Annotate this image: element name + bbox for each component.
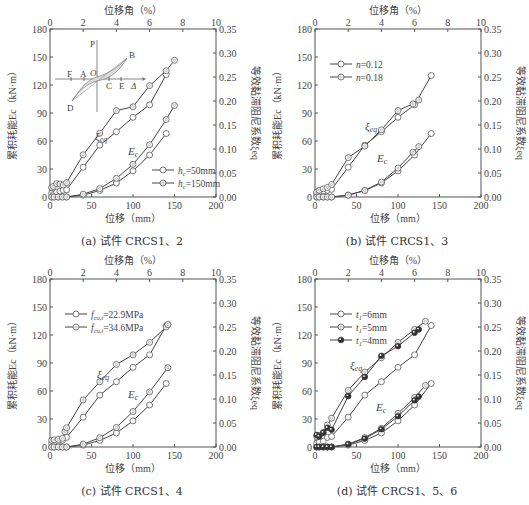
y-axis-label: 累积耗能Ec（kN·m） bbox=[271, 316, 283, 410]
chart-d-svg: 050100150200024681003060901201501800.000… bbox=[265, 250, 529, 482]
svg-text:0.10: 0.10 bbox=[219, 394, 237, 405]
svg-text:2: 2 bbox=[81, 267, 86, 278]
svg-text:0.35: 0.35 bbox=[484, 24, 502, 35]
svg-text:30: 30 bbox=[37, 164, 47, 175]
svg-text:180: 180 bbox=[32, 24, 47, 35]
chart-panel-d: 050100150200024681003060901201501800.000… bbox=[265, 250, 529, 502]
svg-text:Ec: Ec bbox=[127, 145, 139, 159]
svg-text:0.00: 0.00 bbox=[484, 442, 502, 453]
svg-text:150: 150 bbox=[297, 52, 312, 63]
legend: t1=6mmt1=5mmt1=4mm bbox=[330, 310, 387, 347]
svg-text:50: 50 bbox=[352, 450, 362, 461]
svg-text:0: 0 bbox=[48, 200, 53, 211]
x-axis-label: 位移（mm） bbox=[105, 212, 161, 224]
svg-text:ξeq: ξeq bbox=[365, 120, 377, 134]
svg-text:0.25: 0.25 bbox=[219, 322, 237, 333]
svg-text:0.00: 0.00 bbox=[219, 192, 237, 203]
svg-text:100: 100 bbox=[391, 200, 406, 211]
svg-text:Ec: Ec bbox=[375, 401, 387, 415]
svg-text:150: 150 bbox=[32, 52, 47, 63]
svg-text:0: 0 bbox=[42, 442, 47, 453]
svg-text:60: 60 bbox=[37, 386, 47, 397]
svg-text:6: 6 bbox=[412, 17, 417, 28]
y2-axis-label: 等效黏滞阻尼系数ξeq bbox=[514, 316, 527, 410]
svg-text:0.30: 0.30 bbox=[484, 48, 502, 59]
x2-axis-label: 位移角（%） bbox=[104, 4, 162, 16]
svg-text:150: 150 bbox=[432, 200, 447, 211]
svg-text:30: 30 bbox=[302, 414, 312, 425]
chart-b-svg: 050100150200024681003060901201501800.000… bbox=[265, 0, 529, 232]
svg-text:0.25: 0.25 bbox=[484, 322, 502, 333]
chart-a-svg: 050100150200024681003060901201501800.000… bbox=[0, 0, 264, 232]
svg-text:8: 8 bbox=[445, 267, 450, 278]
x2-axis-label: 位移角（%） bbox=[369, 4, 427, 16]
svg-text:4: 4 bbox=[379, 267, 384, 278]
svg-text:100: 100 bbox=[126, 450, 141, 461]
svg-text:fcu,t=34.6MPa: fcu,t=34.6MPa bbox=[91, 323, 144, 334]
svg-text:0.30: 0.30 bbox=[484, 298, 502, 309]
svg-text:0.25: 0.25 bbox=[219, 72, 237, 83]
svg-text:0.30: 0.30 bbox=[219, 298, 237, 309]
y-axis-label: 累积耗能Ec（kN·m） bbox=[6, 66, 18, 160]
svg-text:2: 2 bbox=[346, 17, 351, 28]
svg-text:0: 0 bbox=[313, 267, 318, 278]
svg-text:90: 90 bbox=[37, 108, 47, 119]
svg-text:50: 50 bbox=[352, 200, 362, 211]
axes: 050100150200024681003060901201501800.000… bbox=[271, 254, 527, 474]
caption-c: (c) 试件 CRCS1、4 bbox=[0, 482, 264, 498]
svg-text:n=0.18: n=0.18 bbox=[356, 73, 383, 83]
svg-text:120: 120 bbox=[297, 80, 312, 91]
svg-text:150: 150 bbox=[167, 450, 182, 461]
x-axis-label: 位移（mm） bbox=[105, 462, 161, 474]
legend: hc=50mmhc=150mm bbox=[152, 166, 221, 190]
svg-text:0.20: 0.20 bbox=[484, 346, 502, 357]
y-axis-label: 累积耗能Ec（kN·m） bbox=[271, 66, 283, 160]
svg-text:O: O bbox=[90, 68, 97, 78]
curve-annotations: ξeqEc bbox=[97, 368, 139, 402]
svg-text:30: 30 bbox=[302, 164, 312, 175]
svg-text:0.05: 0.05 bbox=[484, 418, 502, 429]
svg-text:120: 120 bbox=[32, 330, 47, 341]
svg-text:8: 8 bbox=[445, 17, 450, 28]
y-axis-label: 累积耗能Ec（kN·m） bbox=[6, 316, 18, 410]
svg-text:0.25: 0.25 bbox=[484, 72, 502, 83]
svg-text:90: 90 bbox=[302, 358, 312, 369]
svg-text:30: 30 bbox=[37, 414, 47, 425]
svg-text:F: F bbox=[67, 69, 72, 79]
svg-text:C: C bbox=[106, 81, 112, 91]
svg-text:8: 8 bbox=[180, 267, 185, 278]
svg-text:6: 6 bbox=[412, 267, 417, 278]
svg-text:0.35: 0.35 bbox=[484, 274, 502, 285]
svg-text:0.10: 0.10 bbox=[484, 144, 502, 155]
svg-text:0.15: 0.15 bbox=[484, 120, 502, 131]
svg-text:0.20: 0.20 bbox=[484, 96, 502, 107]
svg-text:100: 100 bbox=[391, 450, 406, 461]
svg-text:60: 60 bbox=[37, 136, 47, 147]
svg-text:0: 0 bbox=[313, 450, 318, 461]
svg-text:8: 8 bbox=[180, 17, 185, 28]
svg-text:0.30: 0.30 bbox=[219, 48, 237, 59]
svg-text:0: 0 bbox=[48, 267, 53, 278]
svg-text:180: 180 bbox=[32, 274, 47, 285]
svg-text:0.15: 0.15 bbox=[484, 370, 502, 381]
svg-text:90: 90 bbox=[37, 358, 47, 369]
x-axis-label: 位移（mm） bbox=[370, 462, 426, 474]
svg-text:0: 0 bbox=[48, 17, 53, 28]
svg-text:6: 6 bbox=[147, 267, 152, 278]
svg-text:fcu,t=22.9MPa: fcu,t=22.9MPa bbox=[91, 310, 144, 321]
svg-text:0.15: 0.15 bbox=[219, 370, 237, 381]
legend: n=0.12n=0.18 bbox=[330, 60, 383, 83]
svg-text:0.35: 0.35 bbox=[219, 274, 237, 285]
svg-text:Ec: Ec bbox=[376, 152, 388, 166]
svg-text:2: 2 bbox=[346, 267, 351, 278]
svg-text:0: 0 bbox=[313, 200, 318, 211]
legend: fcu,t=22.9MPafcu,t=34.6MPa bbox=[65, 310, 144, 334]
svg-text:t1=4mm: t1=4mm bbox=[356, 336, 387, 347]
svg-text:0.15: 0.15 bbox=[219, 120, 237, 131]
svg-text:180: 180 bbox=[297, 24, 312, 35]
svg-text:50: 50 bbox=[87, 450, 97, 461]
svg-text:180: 180 bbox=[297, 274, 312, 285]
axes: 050100150200024681003060901201501800.000… bbox=[271, 4, 527, 224]
svg-text:ξeq: ξeq bbox=[350, 359, 362, 373]
x-axis-label: 位移（mm） bbox=[370, 212, 426, 224]
